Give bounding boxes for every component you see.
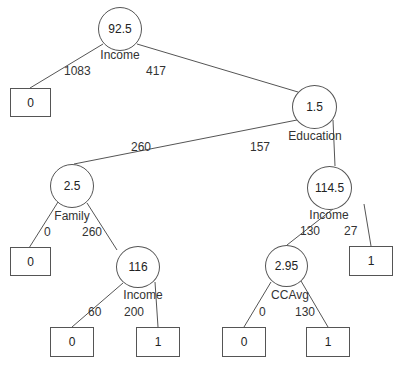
leaf-node: 0 [50, 327, 94, 357]
split-variable-label: Family [54, 209, 89, 223]
edge-count-label: 0 [44, 225, 51, 239]
split-node-education: 1.5 [292, 85, 337, 129]
leaf-node: 0 [222, 327, 266, 357]
split-threshold: 114.5 [315, 181, 344, 195]
edge-count-label: 27 [344, 224, 357, 238]
split-node-family: 2.5 [50, 164, 94, 208]
split-threshold: 2.5 [64, 179, 81, 193]
edge-count-label: 417 [146, 64, 166, 78]
leaf-class-value: 1 [325, 335, 332, 349]
leaf-node: 0 [10, 247, 51, 276]
leaf-class-value: 1 [368, 254, 375, 268]
split-threshold: 92.5 [108, 22, 131, 36]
split-node-income-114: 114.5 [307, 166, 352, 210]
edge-count-label: 200 [124, 305, 144, 319]
split-variable-label: Income [123, 288, 162, 302]
leaf-class-value: 0 [241, 335, 248, 349]
edge-count-label: 260 [131, 140, 151, 154]
split-node-root: 92.5 [98, 7, 142, 51]
split-node-ccavg: 2.95 [265, 245, 308, 287]
split-threshold: 1.5 [306, 100, 323, 114]
split-node-income-116: 116 [116, 246, 160, 288]
edge-count-label: 130 [300, 224, 320, 238]
leaf-class-value: 0 [69, 335, 76, 349]
split-variable-label: Education [288, 129, 341, 143]
edge-count-label: 157 [250, 140, 270, 154]
edge-count-label: 260 [82, 225, 102, 239]
leaf-class-value: 1 [155, 335, 162, 349]
leaf-node: 1 [349, 246, 393, 276]
edge-count-label: 130 [295, 305, 315, 319]
leaf-node: 1 [306, 327, 350, 357]
split-variable-label: CCAvg [271, 288, 309, 302]
leaf-node: 1 [136, 327, 180, 357]
leaf-class-value: 0 [27, 255, 34, 269]
leaf-class-value: 0 [27, 96, 34, 110]
edge-count-label: 60 [88, 305, 101, 319]
leaf-node: 0 [10, 88, 51, 117]
split-variable-label: Income [100, 48, 139, 62]
split-threshold: 2.95 [275, 259, 298, 273]
split-threshold: 116 [128, 260, 147, 274]
edge-count-label: 0 [259, 305, 266, 319]
edge-count-label: 1083 [64, 64, 91, 78]
split-variable-label: Income [309, 208, 348, 222]
